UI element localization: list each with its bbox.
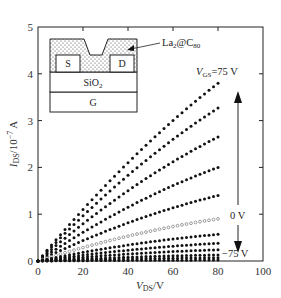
data-point — [190, 235, 193, 238]
data-point — [163, 227, 166, 230]
data-point — [176, 205, 179, 208]
data-point — [217, 233, 220, 236]
svg-text:5: 5 — [28, 21, 34, 33]
data-point — [91, 249, 94, 252]
data-point — [136, 152, 139, 155]
data-point — [208, 196, 211, 199]
data-point — [158, 251, 161, 254]
data-point — [199, 249, 202, 252]
data-point — [163, 166, 166, 169]
data-point — [41, 259, 44, 262]
data-point — [140, 252, 143, 255]
data-point — [194, 221, 197, 224]
data-point — [136, 242, 139, 245]
data-point — [172, 119, 175, 122]
data-point — [212, 259, 215, 262]
data-point — [131, 186, 134, 189]
data-point — [140, 148, 143, 151]
data-point — [77, 247, 80, 250]
y-axis-label: IDS/10−7 A — [6, 121, 21, 169]
data-point — [55, 248, 58, 251]
data-point — [203, 115, 206, 118]
data-point — [208, 140, 211, 143]
data-point — [190, 249, 193, 252]
data-point — [208, 112, 211, 115]
data-point — [64, 259, 67, 262]
data-point — [149, 251, 152, 254]
data-point — [158, 190, 161, 193]
data-point — [212, 109, 215, 112]
data-point — [194, 259, 197, 262]
data-point — [122, 253, 125, 256]
data-point — [127, 189, 130, 192]
data-point — [190, 254, 193, 257]
data-point — [185, 244, 188, 247]
data-point — [100, 198, 103, 201]
data-point — [55, 241, 58, 244]
data-point — [55, 259, 58, 262]
data-point — [208, 254, 211, 257]
data-point — [149, 240, 152, 243]
data-point — [118, 253, 121, 256]
x-axis-label: VDS/V — [136, 279, 164, 293]
data-point — [140, 217, 143, 220]
data-point — [145, 215, 148, 218]
data-point — [167, 238, 170, 241]
data-point — [149, 155, 152, 158]
data-point — [82, 222, 85, 225]
data-point — [208, 242, 211, 245]
data-point — [190, 176, 193, 179]
data-point — [167, 163, 170, 166]
data-point — [59, 240, 62, 243]
svg-text:1: 1 — [28, 208, 34, 220]
data-point — [194, 243, 197, 246]
data-point — [127, 249, 130, 252]
data-point — [199, 243, 202, 246]
svg-text:2: 2 — [28, 161, 34, 173]
data-point — [73, 223, 76, 226]
data-point — [127, 161, 130, 164]
data-point — [194, 175, 197, 178]
data-point — [217, 242, 220, 245]
data-point — [140, 199, 143, 202]
data-point — [77, 234, 80, 237]
data-point — [190, 125, 193, 128]
data-point — [68, 233, 71, 236]
data-point — [176, 250, 179, 253]
data-point — [167, 186, 170, 189]
data-point — [185, 128, 188, 131]
data-point — [212, 85, 215, 88]
data-point — [136, 183, 139, 186]
data-point — [163, 127, 166, 130]
data-point — [77, 226, 80, 229]
data-point — [122, 166, 125, 169]
data-point — [109, 179, 112, 182]
data-point — [154, 259, 157, 262]
data-point — [104, 194, 107, 197]
data-point — [181, 155, 184, 158]
data-point — [176, 135, 179, 138]
data-point — [203, 234, 206, 237]
data-point — [109, 228, 112, 231]
data-point — [68, 223, 71, 226]
data-point — [104, 184, 107, 187]
data-point — [199, 173, 202, 176]
data-point — [131, 259, 134, 262]
data-point — [181, 259, 184, 262]
data-point — [118, 245, 121, 248]
data-point — [194, 235, 197, 238]
data-point — [140, 242, 143, 245]
data-point — [176, 115, 179, 118]
data-point — [194, 100, 197, 103]
data-point — [131, 252, 134, 255]
data-point — [167, 245, 170, 248]
data-point — [59, 245, 62, 248]
data-point — [199, 199, 202, 202]
data-point — [145, 259, 148, 262]
data-point — [185, 249, 188, 252]
data-point — [127, 235, 130, 238]
data-point — [82, 214, 85, 217]
data-point — [100, 232, 103, 235]
data-point — [113, 259, 116, 262]
data-point — [104, 218, 107, 221]
